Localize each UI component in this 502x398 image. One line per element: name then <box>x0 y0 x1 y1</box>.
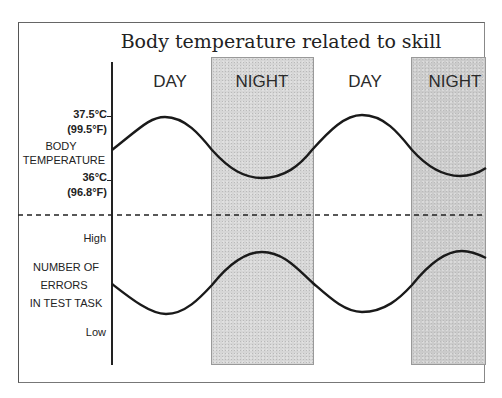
curves-layer <box>0 0 502 398</box>
errors-curve <box>112 251 486 314</box>
body-temperature-curve <box>112 115 486 178</box>
